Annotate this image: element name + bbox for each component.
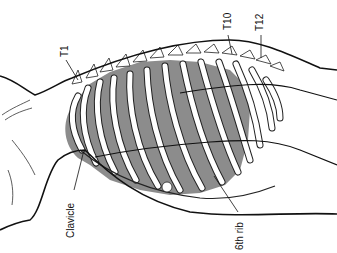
label-t1: T1: [60, 45, 70, 57]
label-clavicle: Clavicle: [66, 203, 76, 238]
label-t12: T12: [255, 14, 265, 31]
label-t10: T10: [223, 13, 233, 30]
head-outline: [2, 100, 35, 205]
rib-cage-drawing: [0, 0, 337, 253]
sternebra: [162, 182, 172, 192]
label-6th-rib: 6th rib: [235, 222, 245, 250]
thorax-illustration: T1 T10 T12 Clavicle 6th rib: [0, 0, 337, 253]
